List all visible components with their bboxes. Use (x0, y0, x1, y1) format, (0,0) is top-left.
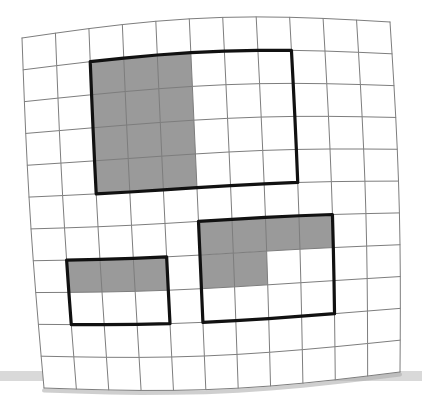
sheet-body (22, 17, 400, 391)
grid-paper-svg (0, 0, 422, 418)
figure-canvas (0, 0, 422, 418)
shaded-block-bottom-left-0 (67, 257, 169, 293)
